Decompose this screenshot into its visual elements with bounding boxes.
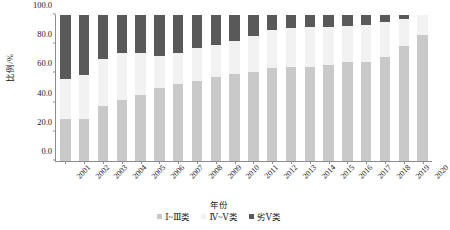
stacked-bar — [117, 15, 127, 161]
bar-segment — [417, 35, 427, 161]
x-tick-label: 2020 — [433, 163, 450, 181]
bar-segment — [117, 15, 127, 53]
bar-segment — [342, 26, 352, 63]
x-tick-label: 2003 — [112, 163, 130, 181]
bar-group — [229, 15, 239, 161]
bar-segment — [60, 119, 70, 161]
bar-segment — [286, 15, 296, 28]
x-tick-label: 2007 — [187, 163, 205, 181]
x-tick-label: 2006 — [169, 163, 187, 181]
x-tick-label: 2001 — [74, 163, 92, 181]
bar-group — [267, 15, 277, 161]
legend-swatch-icon — [157, 214, 162, 219]
bar-segment — [79, 75, 89, 119]
x-tick-label: 2015 — [338, 163, 356, 181]
bar-segment — [248, 72, 258, 161]
x-tick-label: 2012 — [282, 163, 300, 181]
legend-item[interactable]: Ⅳ~Ⅴ类 — [201, 210, 237, 222]
stacked-bar — [380, 15, 390, 161]
stacked-bar — [173, 15, 183, 161]
legend-label: Ⅰ~Ⅲ类 — [165, 210, 190, 222]
bar-segment — [323, 27, 333, 65]
bar-segment — [267, 68, 277, 161]
bar-group — [248, 15, 258, 161]
bar-segment — [192, 15, 202, 48]
bar-group — [361, 15, 371, 161]
bar-segment — [380, 57, 390, 161]
bar-segment — [361, 15, 371, 24]
stacked-bar — [211, 15, 221, 161]
x-axis-tick-labels: 2001200220032004200520062007200820092010… — [55, 163, 432, 197]
stacked-bar — [79, 15, 89, 161]
legend-label: 劣Ⅴ类 — [257, 210, 281, 222]
bar-segment — [380, 22, 390, 58]
stacked-bar — [417, 15, 427, 161]
bar-segment — [98, 106, 108, 161]
x-tick-label: 2014 — [319, 163, 337, 181]
bar-segment — [154, 56, 164, 88]
bar-segment — [248, 15, 258, 36]
bar-segment — [135, 53, 145, 95]
bar-segment — [305, 15, 315, 27]
bar-segment — [399, 46, 409, 161]
legend-item[interactable]: 劣Ⅴ类 — [249, 210, 281, 222]
bar-group — [211, 15, 221, 161]
stacked-bar — [192, 15, 202, 161]
bar-group — [117, 15, 127, 161]
bar-segment — [173, 53, 183, 84]
bars-layer — [56, 15, 432, 161]
stacked-bar — [229, 15, 239, 161]
bar-segment — [192, 48, 202, 81]
bar-segment — [173, 15, 183, 53]
bar-group — [60, 15, 70, 161]
stacked-bar — [60, 15, 70, 161]
bar-segment — [399, 19, 409, 45]
y-tick-label: 0.0 — [6, 146, 56, 156]
stacked-bar — [98, 15, 108, 161]
legend-label: Ⅳ~Ⅴ类 — [209, 210, 237, 222]
legend-item[interactable]: Ⅰ~Ⅲ类 — [157, 210, 190, 222]
bar-segment — [154, 88, 164, 161]
bar-segment — [305, 67, 315, 161]
bar-segment — [361, 25, 371, 62]
bar-segment — [135, 95, 145, 161]
x-tick-label: 2005 — [150, 163, 168, 181]
bar-segment — [417, 15, 427, 35]
plot-area: 0.020.040.060.080.0100.0 — [55, 15, 432, 162]
bar-segment — [211, 45, 221, 77]
x-tick-label: 2009 — [225, 163, 243, 181]
stacked-bar — [342, 15, 352, 161]
bar-segment — [342, 15, 352, 26]
bar-segment — [98, 59, 108, 106]
bar-group — [323, 15, 333, 161]
x-tick-label: 2013 — [301, 163, 319, 181]
bar-segment — [211, 15, 221, 45]
bar-segment — [79, 119, 89, 161]
bar-group — [399, 15, 409, 161]
x-tick-label: 2008 — [206, 163, 224, 181]
x-tick-label: 2018 — [395, 163, 413, 181]
bar-group — [135, 15, 145, 161]
x-tick-label: 2011 — [263, 163, 280, 180]
bar-segment — [323, 65, 333, 161]
x-tick-label: 2002 — [93, 163, 111, 181]
bar-segment — [117, 100, 127, 161]
bar-segment — [117, 53, 127, 100]
bar-group — [305, 15, 315, 161]
bar-group — [173, 15, 183, 161]
stacked-bar — [305, 15, 315, 161]
bar-segment — [342, 62, 352, 161]
bar-segment — [60, 15, 70, 79]
bar-segment — [79, 15, 89, 75]
x-tick-label: 2010 — [244, 163, 262, 181]
bar-segment — [173, 84, 183, 161]
y-tick-label: 20.0 — [6, 117, 56, 127]
bar-segment — [286, 67, 296, 161]
legend-swatch-icon — [249, 214, 254, 219]
stacked-bar — [286, 15, 296, 161]
chart-legend: Ⅰ~Ⅲ类Ⅳ~Ⅴ类劣Ⅴ类 — [0, 210, 438, 222]
bar-segment — [192, 81, 202, 161]
bar-group — [154, 15, 164, 161]
stacked-bar — [361, 15, 371, 161]
